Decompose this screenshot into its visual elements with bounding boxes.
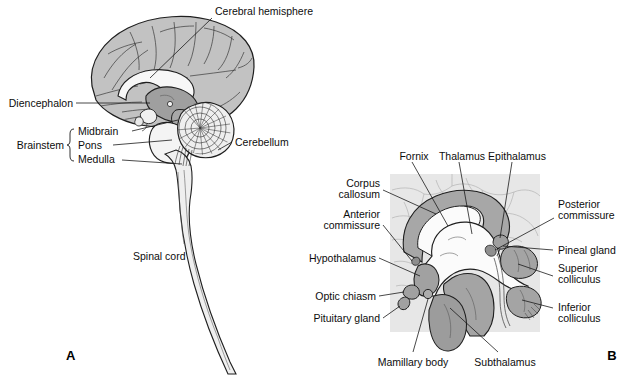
third-ventricle-marker [167,101,172,106]
label-fornix: Fornix [399,150,429,162]
panel-b-group: Fornix Thalamus Epithalamus Corpus callo… [309,150,617,368]
label-midbrain: Midbrain [78,125,118,137]
label-brainstem: Brainstem [17,139,65,151]
label-colliculus-superior: colliculus [558,273,601,285]
medulla-spinalcord-shape-a [165,150,236,374]
label-hypothalamus: Hypothalamus [309,252,376,264]
label-pituitary-gland: Pituitary gland [313,312,380,324]
label-commissure-posterior: commissure [558,209,615,221]
label-subthalamus: Subthalamus [474,356,535,368]
label-cerebellum: Cerebellum [235,136,289,148]
label-colliculus-inferior: colliculus [558,312,601,324]
brainstem-brace [67,129,74,161]
label-thalamus: Thalamus [439,150,485,162]
mamillary-body-shape-b [423,289,432,298]
label-pons: Pons [78,139,102,151]
label-spinal-cord: Spinal cord [133,250,186,262]
panel-a-group: Cerebral hemisphere Diencephalon Brainst… [9,5,313,374]
label-pineal-gland: Pineal gland [558,244,616,256]
label-commissure-anterior: commissure [323,219,380,231]
label-medulla: Medulla [78,153,115,165]
panel-letter-b: B [607,348,616,363]
cerebellum-shape-a [178,102,234,157]
anterior-commissure-shape-b [412,257,420,265]
brain-anatomy-figure: Cerebral hemisphere Diencephalon Brainst… [0,0,627,378]
inferior-colliculus-shape-b [506,286,541,318]
label-cerebral-hemisphere: Cerebral hemisphere [215,5,313,17]
label-diencephalon: Diencephalon [9,97,73,109]
posterior-commissure-shape-b [485,245,496,256]
label-epithalamus: Epithalamus [488,150,546,162]
label-optic-chiasm: Optic chiasm [315,290,376,302]
panel-letter-a: A [66,348,76,363]
optic-chiasm-a [135,117,144,126]
label-callosum: callosum [339,188,381,200]
label-mamillary-body: Mamillary body [378,356,449,368]
